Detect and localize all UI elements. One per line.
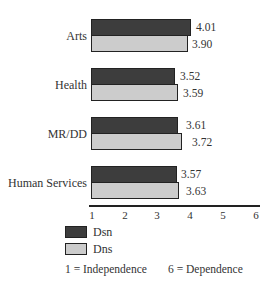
x-tick-2: 2 (120, 209, 130, 221)
bar-human-services-dsn (91, 166, 177, 183)
legend-label-dns: Dns (93, 243, 112, 255)
bar-mrdd-dsn (91, 117, 178, 134)
bar-health-dns (91, 84, 178, 101)
scale-note-independence: 1 = Independence (65, 263, 147, 275)
x-tick-4: 4 (185, 209, 195, 221)
legend-swatch-dsn (65, 226, 87, 238)
value-health-dsn: 3.52 (180, 70, 200, 82)
scale-note-dependence: 6 = Dependence (168, 263, 243, 275)
bar-arts-dsn (91, 19, 191, 36)
x-tick-5: 5 (218, 209, 228, 221)
bar-health-dsn (91, 68, 175, 85)
value-human-services-dns: 3.63 (186, 185, 206, 197)
x-tick-1: 1 (87, 209, 97, 221)
x-tick-3: 3 (152, 209, 162, 221)
value-mrdd-dns: 3.72 (192, 136, 212, 148)
value-mrdd-dsn: 3.61 (186, 119, 206, 131)
value-health-dns: 3.59 (183, 87, 203, 99)
category-label-mrdd: MR/DD (48, 127, 87, 141)
category-label-human-services: Human Services (8, 176, 87, 190)
bar-human-services-dns (91, 182, 179, 199)
bar-mrdd-dns (91, 133, 182, 150)
x-tick-6: 6 (251, 209, 261, 221)
value-arts-dsn: 4.01 (196, 21, 216, 33)
category-label-health: Health (55, 78, 87, 92)
value-human-services-dsn: 3.57 (181, 168, 201, 180)
category-label-arts: Arts (66, 29, 87, 43)
value-arts-dns: 3.90 (192, 38, 212, 50)
legend-label-dsn: Dsn (93, 226, 112, 238)
x-axis-line (89, 205, 260, 207)
legend-swatch-dns (65, 243, 87, 255)
bar-arts-dns (91, 35, 188, 52)
